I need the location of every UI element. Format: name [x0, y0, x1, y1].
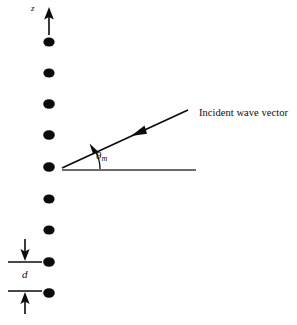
scatterer-dot [43, 162, 55, 172]
incident-wave-vector-label: Incident wave vector [199, 108, 288, 119]
scatterer-dot [43, 257, 55, 267]
theta-subscript-m: m [101, 154, 107, 163]
incident-wave-vector-ray [62, 110, 188, 168]
z-axis-label: z [31, 4, 35, 13]
spacing-d-label: d [22, 269, 28, 280]
scatterer-dot [43, 99, 55, 109]
scatterer-dot [43, 68, 54, 77]
figure-canvas: z θm d Incident wave vector [0, 0, 297, 325]
scatterer-dot [43, 225, 54, 234]
diagram-svg [0, 0, 297, 325]
scatterer-dot-column [43, 37, 55, 297]
scatterer-dot [43, 288, 55, 298]
incident-wave-vector-line [62, 110, 188, 168]
scatterer-dot [43, 194, 54, 203]
z-axis-arrow [44, 7, 54, 35]
angle-theta-m-label: θm [96, 150, 107, 163]
scatterer-dot [43, 130, 55, 140]
incident-wave-vector-arrowhead [131, 126, 147, 136]
scatterer-dot [43, 37, 54, 46]
